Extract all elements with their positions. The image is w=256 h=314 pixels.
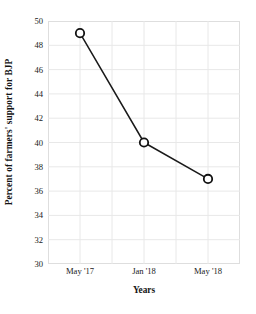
y-axis-tick-labels: 3032343638404244464850 (18, 0, 46, 290)
data-point-marker (140, 138, 148, 146)
y-axis-title-text: Percent of farmers' support for BJP (4, 59, 14, 205)
y-axis-tick-label: 32 (34, 235, 43, 245)
x-axis-title: Years (48, 285, 240, 295)
y-axis-tick-label: 36 (34, 186, 43, 196)
data-point-marker (204, 175, 212, 183)
y-axis-tick-label: 42 (34, 113, 43, 123)
y-axis-tick-label: 48 (34, 40, 43, 50)
y-axis-tick-label: 46 (34, 65, 43, 75)
y-axis-tick-label: 38 (34, 162, 43, 172)
x-axis-tick-label: Jan '18 (132, 266, 156, 276)
x-axis-tick-labels: May '17Jan '18May '18 (48, 266, 240, 282)
y-axis-title: Percent of farmers' support for BJP (0, 0, 18, 264)
chart-figure: Percent of farmers' support for BJP 3032… (0, 0, 256, 314)
x-axis-tick-label: May '17 (66, 266, 94, 276)
data-point-marker (76, 29, 84, 37)
y-axis-tick-label: 50 (34, 16, 43, 26)
y-axis-tick-label: 40 (34, 138, 43, 148)
y-axis-tick-label: 34 (34, 210, 43, 220)
x-axis-tick-label: May '18 (194, 266, 222, 276)
plot-area (48, 21, 240, 264)
y-axis-tick-label: 44 (34, 89, 43, 99)
y-axis-tick-label: 30 (34, 259, 43, 269)
chart-canvas (48, 21, 240, 264)
